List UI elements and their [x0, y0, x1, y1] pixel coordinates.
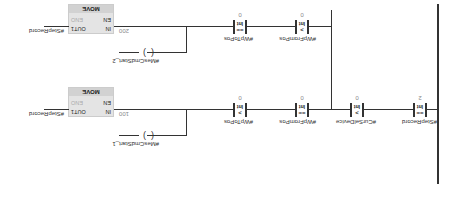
- move-in-value: 200: [119, 28, 129, 34]
- pin-eno: ENO: [71, 16, 83, 23]
- wire: [186, 26, 187, 53]
- wire: [119, 135, 139, 136]
- wire: [187, 109, 347, 110]
- coil-mescmdstart-1[interactable]: ( ): [143, 131, 154, 141]
- contact-value: 0: [287, 12, 317, 18]
- pin-en: EN: [103, 16, 111, 23]
- contact-variable: #WpToPos: [224, 119, 253, 125]
- coil-variable: #MesCmdStart_2: [112, 58, 159, 64]
- wire: [114, 109, 187, 110]
- wire: [44, 109, 69, 110]
- wire: [186, 109, 187, 136]
- move-block[interactable]: MOVE EN ENO IN OUT1: [68, 87, 114, 117]
- power-rail: [437, 4, 439, 184]
- compare-contact-wpfrompos[interactable]: == Int: [295, 103, 309, 117]
- coil-mescmdstart-2[interactable]: ( ): [143, 48, 154, 58]
- contact-value: 0: [225, 95, 255, 101]
- wire: [114, 26, 187, 27]
- compare-contact-wptopos[interactable]: > Int: [233, 103, 247, 117]
- move-title: MOVE: [69, 5, 113, 13]
- move-in-value: 100: [119, 111, 129, 117]
- pin-in: IN: [106, 25, 112, 32]
- compare-contact-steprecord[interactable]: == Int: [413, 103, 427, 117]
- pin-en: EN: [103, 99, 111, 106]
- compare-contact-wpfrompos[interactable]: > Int: [295, 20, 309, 34]
- move-title: MOVE: [69, 88, 113, 96]
- contact-variable: #WpToPos: [224, 36, 253, 42]
- wire: [44, 26, 69, 27]
- contact-value: 0: [287, 95, 317, 101]
- compare-contact-curseldevice[interactable]: > Int: [350, 103, 364, 117]
- pin-out1: OUT1: [71, 108, 86, 115]
- contact-variable: #StepRecord: [402, 119, 437, 125]
- move-out-value: #StepRecord: [29, 28, 64, 34]
- pin-out1: OUT1: [71, 25, 86, 32]
- contact-value: 0: [225, 12, 255, 18]
- contact-variable: #CurSelDevice: [336, 119, 376, 125]
- contact-variable: #WpFromPos: [279, 119, 316, 125]
- wire: [331, 10, 332, 110]
- coil-variable: #MesCmdStart_1: [112, 141, 159, 147]
- ladder-network: == Int #StepRecord 2 > Int #CurSelDevice…: [0, 0, 459, 199]
- contact-variable: #WpFromPos: [279, 36, 316, 42]
- compare-contact-wptopos[interactable]: == Int: [233, 20, 247, 34]
- contact-value: 2: [405, 95, 435, 101]
- move-out-value: #StepRecord: [29, 111, 64, 117]
- wire: [187, 26, 332, 27]
- move-block[interactable]: MOVE EN ENO IN OUT1: [68, 4, 114, 34]
- pin-eno: ENO: [71, 99, 83, 106]
- contact-value: 0: [342, 95, 372, 101]
- pin-in: IN: [106, 108, 112, 115]
- wire: [119, 52, 139, 53]
